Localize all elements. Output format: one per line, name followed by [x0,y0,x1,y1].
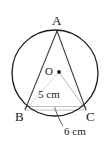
geometry-figure: A B C O 5 cm 6 cm [0,0,109,144]
circle-outline [12,30,98,116]
vertex-label-b: B [15,110,24,123]
center-dot-icon [57,70,61,74]
chord-measure-label: 6 cm [64,126,86,137]
vertex-label-c: C [86,110,95,123]
radius-measure-label: 5 cm [38,89,60,100]
center-label-o: O [45,66,53,77]
radius-o-to-c-line [59,72,86,110]
vertex-label-a: A [52,14,61,27]
triangle-side-ac [57,31,86,110]
leader-line-icon [56,110,64,126]
